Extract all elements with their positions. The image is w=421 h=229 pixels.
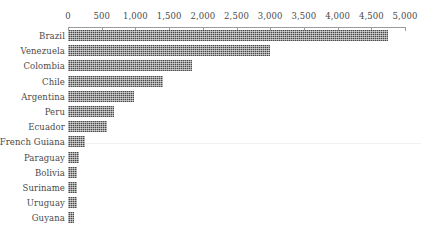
x-axis-tick-label: 1,500	[157, 11, 182, 21]
bar	[68, 136, 85, 147]
x-axis-tick-label: 0	[65, 11, 71, 21]
bar	[68, 91, 134, 102]
bar	[68, 30, 388, 41]
bar	[68, 167, 77, 178]
y-axis-category-label: Suriname	[22, 183, 65, 193]
y-axis-category-label: Peru	[45, 107, 65, 117]
bar	[68, 152, 79, 163]
bar	[68, 76, 163, 87]
bar	[68, 60, 192, 71]
x-axis-tick-label: 3,500	[291, 11, 316, 21]
plot-area: 05001,0001,5002,0002,5003,0003,5004,0004…	[0, 0, 421, 229]
x-axis-tick-label: 4,000	[325, 11, 350, 21]
bar	[68, 45, 270, 56]
x-axis-tick-label: 5,000	[393, 11, 418, 21]
y-axis-category-label: French Guiana	[0, 137, 65, 147]
x-axis-tick-label: 1,000	[123, 11, 148, 21]
x-axis-tick-label: 2,500	[224, 11, 249, 21]
x-axis-tick-label: 4,500	[359, 11, 384, 21]
y-axis-category-label: Guyana	[32, 213, 65, 223]
x-axis-tick-label: 2,000	[190, 11, 215, 21]
y-axis-category-label: Argentina	[21, 92, 65, 102]
y-axis-category-label: Colombia	[23, 61, 65, 71]
y-axis-category-label: Bolivia	[35, 168, 65, 178]
y-axis-category-label: Chile	[42, 77, 65, 87]
bar	[68, 182, 77, 193]
x-axis-tick-label: 3,000	[258, 11, 283, 21]
y-axis-category-label: Venezuela	[20, 46, 65, 56]
y-axis-category-label: Uruguay	[27, 198, 65, 208]
bar	[68, 106, 114, 117]
y-axis-category-label: Paraguay	[24, 153, 65, 163]
bar	[68, 121, 107, 132]
y-axis-category-label: Ecuador	[28, 122, 65, 132]
x-axis-tick-label: 500	[93, 11, 110, 21]
bar	[68, 212, 74, 223]
bar	[68, 197, 77, 208]
y-axis-category-label: Brazil	[39, 31, 65, 41]
x-axis-tick	[405, 27, 406, 31]
bar-chart: 05001,0001,5002,0002,5003,0003,5004,0004…	[0, 0, 421, 229]
